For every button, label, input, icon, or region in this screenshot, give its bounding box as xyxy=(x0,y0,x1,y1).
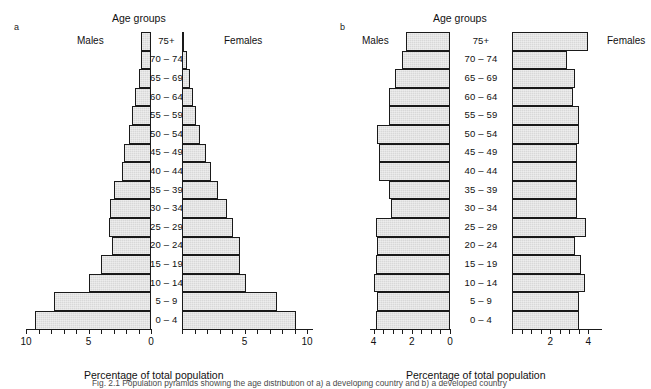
bar-female-70---74 xyxy=(512,51,567,70)
x-tick xyxy=(257,329,258,334)
bar-male-5---9 xyxy=(377,292,450,311)
age-group-label: 35 – 39 xyxy=(449,184,513,195)
x-tick-label: 5 xyxy=(234,336,256,347)
bar-female-40---44 xyxy=(512,162,577,181)
x-axis-right xyxy=(182,329,313,330)
bar-male-55---59 xyxy=(389,106,450,125)
age-group-label: 40 – 44 xyxy=(135,165,199,176)
x-axis-left xyxy=(370,329,450,330)
x-tick xyxy=(182,329,183,334)
age-group-label: 35 – 39 xyxy=(135,184,199,195)
age-group-label: 75+ xyxy=(135,35,199,46)
figure-caption: Fig. 2.1 Population pyramids showing the… xyxy=(92,380,507,388)
x-tick xyxy=(402,329,403,334)
bar-female-55---59 xyxy=(512,106,579,125)
age-group-label: 40 – 44 xyxy=(449,165,513,176)
x-tick xyxy=(39,329,40,334)
figure-caption-clip: Fig. 2.1 Population pyramids showing the… xyxy=(92,380,651,389)
age-group-label: 5 – 9 xyxy=(449,295,513,306)
age-group-label: 0 – 4 xyxy=(449,314,513,325)
bar-female-65---69 xyxy=(512,69,575,88)
age-group-label: 5 – 9 xyxy=(135,295,199,306)
x-tick xyxy=(588,329,589,334)
bar-male-75+ xyxy=(406,32,450,51)
age-group-label: 20 – 24 xyxy=(449,239,513,250)
bar-female-35---39 xyxy=(512,181,577,200)
x-tick xyxy=(522,329,523,334)
x-tick xyxy=(151,329,152,334)
panel-b-plot-area: 75+70 – 7465 – 6960 – 6455 – 5950 – 5445… xyxy=(326,0,651,389)
bar-male-15---19 xyxy=(376,255,450,274)
x-tick-label: 0 xyxy=(140,336,162,347)
x-tick xyxy=(232,329,233,334)
x-tick xyxy=(440,329,441,334)
age-group-label: 0 – 4 xyxy=(135,314,199,325)
age-group-label: 60 – 64 xyxy=(449,91,513,102)
x-tick xyxy=(307,329,308,334)
bar-male-60---64 xyxy=(389,88,450,107)
age-group-label: 15 – 19 xyxy=(449,258,513,269)
x-tick xyxy=(541,329,542,334)
panel-a: a Age groups Males Females Percentage of… xyxy=(0,0,326,389)
age-group-label: 65 – 69 xyxy=(449,72,513,83)
x-tick-label: 2 xyxy=(401,336,423,347)
age-group-label: 30 – 34 xyxy=(449,202,513,213)
x-tick xyxy=(101,329,102,334)
age-group-label: 10 – 14 xyxy=(449,277,513,288)
age-group-label: 50 – 54 xyxy=(135,128,199,139)
age-group-label: 45 – 49 xyxy=(449,146,513,157)
bar-female-60---64 xyxy=(512,88,573,107)
age-group-label: 25 – 29 xyxy=(449,221,513,232)
age-group-label: 30 – 34 xyxy=(135,202,199,213)
x-tick xyxy=(282,329,283,334)
bar-female-20---24 xyxy=(512,237,575,256)
x-tick xyxy=(51,329,52,334)
bar-male-70---74 xyxy=(402,51,450,70)
age-group-label: 15 – 19 xyxy=(135,258,199,269)
x-tick xyxy=(579,329,580,334)
x-tick xyxy=(512,329,513,334)
bar-male-50---54 xyxy=(377,125,450,144)
age-group-label: 20 – 24 xyxy=(135,239,199,250)
x-tick xyxy=(114,329,115,334)
x-tick xyxy=(195,329,196,334)
x-tick xyxy=(383,329,384,334)
x-tick xyxy=(64,329,65,334)
bar-female-50---54 xyxy=(512,125,579,144)
x-tick xyxy=(412,329,413,334)
age-group-label: 75+ xyxy=(449,35,513,46)
x-tick xyxy=(531,329,532,334)
bar-male-35---39 xyxy=(389,181,450,200)
x-tick xyxy=(76,329,77,334)
population-pyramid-figure: a Age groups Males Females Percentage of… xyxy=(0,0,651,389)
bar-male-45---49 xyxy=(379,144,450,163)
x-tick xyxy=(139,329,140,334)
bar-female-10---14 xyxy=(512,274,585,293)
x-tick-label: 4 xyxy=(363,336,385,347)
x-tick-label: 2 xyxy=(539,336,561,347)
x-tick-label: 4 xyxy=(577,336,599,347)
bar-male-10---14 xyxy=(374,274,450,293)
age-group-label: 70 – 74 xyxy=(135,53,199,64)
x-tick xyxy=(220,329,221,334)
bar-female-5---9 xyxy=(512,292,579,311)
x-tick xyxy=(550,329,551,334)
x-tick xyxy=(89,329,90,334)
x-tick-label: 10 xyxy=(15,336,37,347)
bar-female-30---34 xyxy=(512,199,577,218)
x-tick xyxy=(560,329,561,334)
x-tick xyxy=(450,329,451,334)
age-group-label: 55 – 59 xyxy=(449,109,513,120)
age-group-label: 60 – 64 xyxy=(135,91,199,102)
panel-b: b Age groups Males Females Percentage of… xyxy=(326,0,651,389)
bar-male-25---29 xyxy=(376,218,450,237)
x-tick xyxy=(26,329,27,334)
x-tick xyxy=(431,329,432,334)
x-tick-label: 10 xyxy=(296,336,318,347)
bar-male-0---4 xyxy=(376,311,450,330)
bar-female-25---29 xyxy=(512,218,586,237)
age-group-label: 45 – 49 xyxy=(135,146,199,157)
x-tick xyxy=(245,329,246,334)
age-group-label: 55 – 59 xyxy=(135,109,199,120)
x-tick xyxy=(393,329,394,334)
